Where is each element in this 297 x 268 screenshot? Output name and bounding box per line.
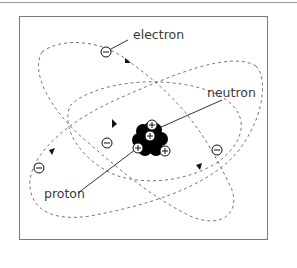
orbit-arrow-icon <box>112 119 117 128</box>
electron-label: electron <box>133 29 184 42</box>
electron-icon <box>212 145 222 155</box>
proton-label: proton <box>44 188 85 201</box>
proton-icon <box>160 146 170 156</box>
proton-icon <box>133 143 143 153</box>
orbit-arrow-icon <box>49 148 55 155</box>
electron-icon <box>102 138 112 148</box>
proton-leader-line <box>78 146 140 193</box>
proton-icon <box>147 120 157 130</box>
proton-icon <box>145 131 155 141</box>
electron-icon <box>34 163 44 173</box>
electron-icon <box>101 47 111 57</box>
orbit-arrow-icon <box>125 58 131 63</box>
neutron-label: neutron <box>207 87 256 100</box>
orbit-arrow-icon <box>196 163 202 170</box>
electron-leader-line <box>109 40 128 50</box>
